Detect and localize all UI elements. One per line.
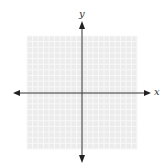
- x-axis-label: x: [154, 86, 160, 97]
- y-axis-up-arrow-icon: [79, 21, 85, 29]
- x-axis-left-arrow-icon: [13, 90, 20, 96]
- y-axis-down-arrow-icon: [79, 155, 85, 163]
- coordinate-plane: [0, 0, 166, 168]
- x-axis-right-arrow-icon: [144, 90, 151, 96]
- y-axis-label: y: [79, 8, 85, 19]
